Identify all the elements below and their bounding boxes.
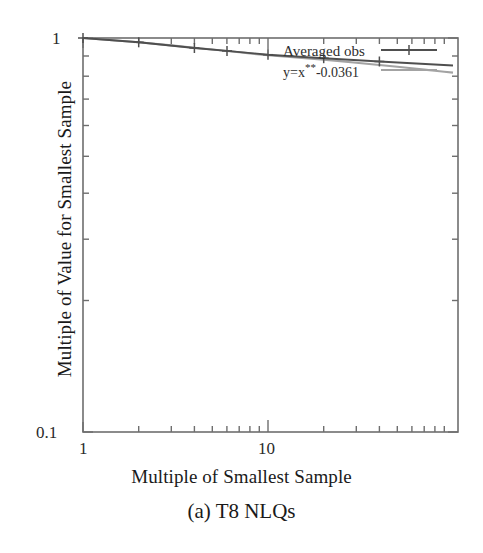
- plot-area: Averaged obs y=x**-0.0361 1 0.1 1 10 Mul…: [0, 0, 483, 470]
- legend-fit-suffix: -0.0361: [316, 65, 359, 80]
- x-axis-title: Multiple of Smallest Sample: [0, 466, 483, 488]
- figure-caption: (a) T8 NLQs: [0, 499, 483, 524]
- x-axis-ticks: [83, 38, 444, 432]
- legend-fit-prefix: y=x: [283, 65, 305, 80]
- figure-panel: Averaged obs y=x**-0.0361 1 0.1 1 10 Mul…: [0, 0, 483, 553]
- legend-label-fit-equation: y=x**-0.0361: [283, 62, 359, 80]
- x-axis-tick-label-10: 10: [258, 440, 275, 457]
- axis-frame: [83, 38, 458, 432]
- y-axis-ticks: [83, 38, 458, 432]
- legend-label-averaged-obs: Averaged obs: [283, 44, 365, 59]
- plot-frame-border: [83, 38, 458, 432]
- legend-fit-superscript: **: [305, 61, 316, 73]
- legend-key-observed: [381, 45, 437, 55]
- x-axis-tick-label-1: 1: [79, 440, 88, 457]
- y-axis-title: Multiple of Value for Smallest Sample: [54, 29, 76, 429]
